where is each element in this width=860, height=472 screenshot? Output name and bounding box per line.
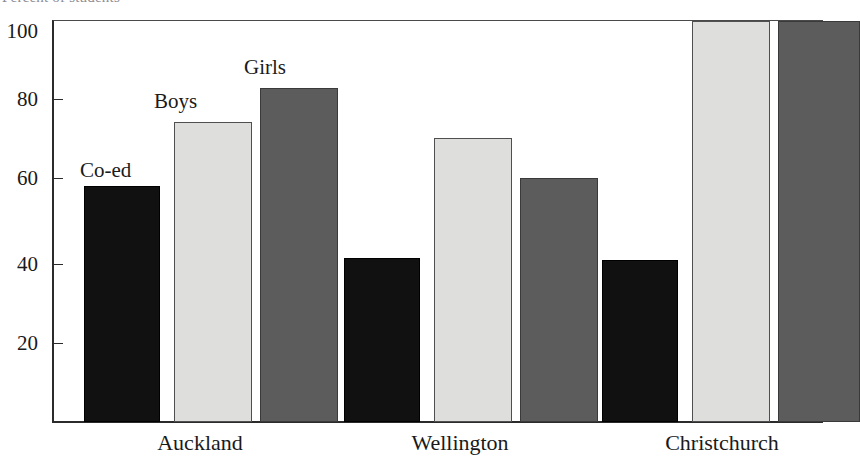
x-tick-label-christchurch: Christchurch <box>665 431 779 455</box>
x-tick-label-auckland: Auckland <box>157 431 243 455</box>
x-tick-label-wellington: Wellington <box>411 431 508 455</box>
